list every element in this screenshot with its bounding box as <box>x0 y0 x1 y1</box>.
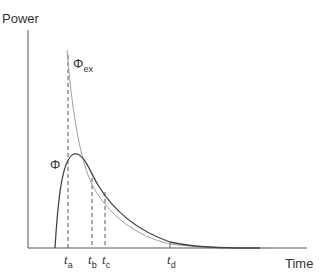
diagram-canvas <box>0 0 327 280</box>
phi-label: Φ <box>50 157 60 172</box>
x-axis-label: Time <box>285 256 313 271</box>
tb-label: tb <box>88 252 97 270</box>
ta-label: ta <box>64 252 73 270</box>
tc-label: tc <box>102 252 110 270</box>
phi-ex-label: Φex <box>73 56 93 74</box>
phi-ex-curve <box>67 50 270 248</box>
y-axis-label: Power <box>2 11 39 26</box>
td-label: td <box>167 252 176 270</box>
